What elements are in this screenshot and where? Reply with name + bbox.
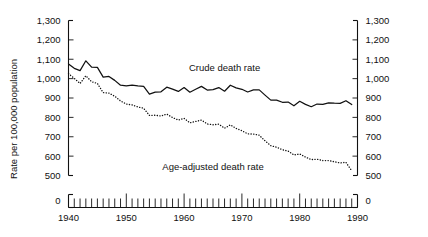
y-tick-label: 800: [366, 112, 382, 123]
plot-frame: [69, 21, 358, 208]
y-tick-label: 500: [366, 170, 382, 181]
y-tick-label: 600: [366, 151, 382, 162]
x-tick-label: 1990: [347, 212, 368, 223]
x-axis-tick-labels: 194019501960197019801990: [58, 212, 368, 223]
y-tick-label: 500: [45, 170, 61, 181]
y-axis-tick-labels: 1,3001,3001,2001,2001,1001,1001,0001,000…: [37, 15, 390, 206]
y-axis-title: Rate per 100,000 population: [8, 59, 19, 179]
x-tick-label: 1980: [289, 212, 310, 223]
series-annotations: Crude death rateAge-adjusted death rate: [162, 62, 263, 172]
death-rate-line-chart: 1,3001,3001,2001,2001,1001,1001,0001,000…: [0, 0, 428, 237]
y-tick-label: 1,300: [37, 15, 61, 26]
y-tick-label: 0: [366, 195, 371, 206]
y-tick-label: 800: [45, 112, 61, 123]
y-tick-label: 1,200: [366, 34, 390, 45]
series-annotation: Age-adjusted death rate: [162, 161, 263, 172]
series-annotation: Crude death rate: [189, 62, 260, 73]
y-tick-label: 1,300: [366, 15, 390, 26]
y-tick-label: 900: [45, 92, 61, 103]
y-tick-label: 0: [55, 195, 60, 206]
y-tick-label: 1,100: [37, 54, 61, 65]
y-tick-label: 1,200: [37, 34, 61, 45]
x-tick-label: 1950: [116, 212, 137, 223]
x-tick-label: 1970: [231, 212, 252, 223]
y-tick-label: 700: [366, 131, 382, 142]
y-tick-label: 1,000: [366, 73, 390, 84]
x-axis-ticks: [74, 194, 351, 208]
y-tick-label: 1,000: [37, 73, 61, 84]
x-tick-label: 1960: [174, 212, 195, 223]
y-tick-label: 600: [45, 151, 61, 162]
y-tick-label: 700: [45, 131, 61, 142]
y-tick-label: 1,100: [366, 54, 390, 65]
x-tick-label: 1940: [58, 212, 79, 223]
y-tick-label: 900: [366, 92, 382, 103]
y-axis-ticks: [69, 40, 358, 156]
series-line-dotted: [69, 74, 352, 171]
data-series: [69, 61, 352, 171]
chart-container: 1,3001,3001,2001,2001,1001,1001,0001,000…: [0, 0, 428, 237]
